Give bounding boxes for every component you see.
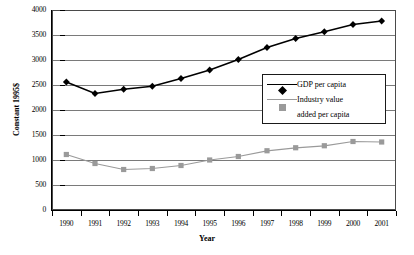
- data-point-diamond: [120, 86, 127, 93]
- legend-marker-diamond-icon: [267, 78, 297, 92]
- data-point-square: [178, 163, 183, 168]
- legend-entry-industry: Industry value: [267, 93, 381, 108]
- data-point-square: [264, 148, 269, 153]
- legend-marker-square-icon: [267, 93, 297, 107]
- data-point-square: [121, 167, 126, 172]
- data-point-square: [207, 157, 212, 162]
- data-point-diamond: [264, 44, 271, 51]
- data-point-square: [92, 161, 97, 166]
- chart-container: 05001000150020002500300035004000 Constan…: [0, 0, 414, 255]
- data-point-diamond: [350, 21, 357, 28]
- data-point-diamond: [292, 35, 299, 42]
- data-point-diamond: [378, 18, 385, 25]
- data-point-square: [350, 139, 355, 144]
- data-point-diamond: [206, 67, 213, 74]
- legend-entry-gdp: GDP per capita: [267, 78, 381, 93]
- legend-label-gdp: GDP per capita: [297, 78, 346, 91]
- data-point-diamond: [63, 79, 70, 86]
- chart-legend: GDP per capita Industry value added per …: [262, 74, 386, 124]
- data-point-diamond: [92, 90, 99, 97]
- data-series-layer: [0, 0, 414, 255]
- series-line: [66, 142, 381, 170]
- data-point-diamond: [149, 83, 156, 90]
- legend-label-industry-line1: Industry value: [297, 93, 343, 106]
- series-industry: [64, 139, 385, 172]
- data-point-diamond: [178, 75, 185, 82]
- data-point-square: [322, 143, 327, 148]
- data-point-square: [150, 166, 155, 171]
- data-point-square: [64, 152, 69, 157]
- data-point-diamond: [321, 28, 328, 35]
- data-point-square: [293, 145, 298, 150]
- data-point-square: [236, 154, 241, 159]
- data-point-square: [379, 139, 384, 144]
- data-point-diamond: [235, 56, 242, 63]
